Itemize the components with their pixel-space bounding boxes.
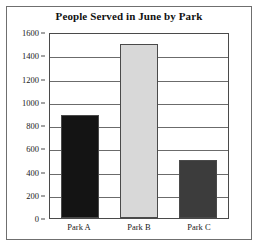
x-tick-label: Park B bbox=[109, 222, 169, 232]
y-tick-label: 1000 bbox=[22, 98, 39, 108]
y-tick-label: 1200 bbox=[22, 75, 39, 85]
x-tick-label: Park A bbox=[49, 222, 109, 232]
bar-slot bbox=[169, 34, 228, 218]
chart-title: People Served in June by Park bbox=[6, 10, 252, 22]
y-tick-label: 400 bbox=[26, 168, 39, 178]
y-tick-mark bbox=[41, 79, 45, 80]
y-tick-mark bbox=[41, 102, 45, 103]
y-tick-mark bbox=[41, 149, 45, 150]
bar-slot bbox=[109, 34, 168, 218]
x-tick-label: Park C bbox=[169, 222, 229, 232]
y-tick-mark bbox=[41, 56, 45, 57]
bar-slot bbox=[50, 34, 109, 218]
x-axis: Park APark BPark C bbox=[49, 222, 229, 232]
plot-area bbox=[49, 33, 229, 219]
y-tick-mark bbox=[41, 172, 45, 173]
y-tick-label: 1400 bbox=[22, 51, 39, 61]
chart-figure: People Served in June by Park 0200400600… bbox=[0, 0, 259, 246]
bar-series bbox=[50, 34, 228, 218]
y-tick-mark bbox=[41, 219, 45, 220]
y-tick-mark bbox=[41, 33, 45, 34]
bar-park-a bbox=[61, 115, 99, 218]
y-tick-mark bbox=[41, 126, 45, 127]
y-tick-label: 800 bbox=[26, 121, 39, 131]
y-axis: 02004006008001000120014001600 bbox=[0, 33, 45, 219]
y-tick-label: 200 bbox=[26, 191, 39, 201]
y-tick-mark bbox=[41, 195, 45, 196]
y-tick-label: 0 bbox=[35, 214, 39, 224]
bar-park-c bbox=[179, 160, 217, 218]
y-tick-label: 600 bbox=[26, 144, 39, 154]
y-tick-label: 1600 bbox=[22, 28, 39, 38]
bar-park-b bbox=[120, 44, 158, 218]
